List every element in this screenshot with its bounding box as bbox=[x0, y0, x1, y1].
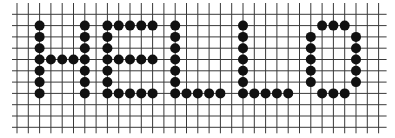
dot bbox=[170, 32, 180, 42]
dot bbox=[328, 21, 338, 31]
dot bbox=[80, 43, 90, 53]
dot bbox=[35, 88, 45, 98]
dot bbox=[170, 21, 180, 31]
dot bbox=[102, 32, 112, 42]
dot bbox=[148, 55, 158, 65]
dot bbox=[204, 88, 214, 98]
dot bbox=[351, 55, 361, 65]
dot bbox=[57, 55, 67, 65]
dot bbox=[170, 77, 180, 87]
dot bbox=[238, 66, 248, 76]
dot bbox=[114, 88, 124, 98]
dot bbox=[340, 88, 350, 98]
dot bbox=[102, 43, 112, 53]
dot bbox=[46, 55, 56, 65]
dot bbox=[182, 88, 192, 98]
dot bbox=[136, 21, 146, 31]
dot bbox=[35, 77, 45, 87]
dot bbox=[102, 21, 112, 31]
dot bbox=[283, 88, 293, 98]
dot bbox=[136, 55, 146, 65]
dot bbox=[238, 21, 248, 31]
dot bbox=[80, 55, 90, 65]
dot bbox=[80, 88, 90, 98]
dot bbox=[170, 43, 180, 53]
dot bbox=[238, 77, 248, 87]
dot bbox=[351, 32, 361, 42]
dot bbox=[102, 88, 112, 98]
dot bbox=[148, 21, 158, 31]
dot bbox=[306, 43, 316, 53]
dot-matrix-board bbox=[0, 0, 395, 138]
dot bbox=[340, 21, 350, 31]
dot bbox=[80, 21, 90, 31]
dot bbox=[317, 21, 327, 31]
dot bbox=[125, 88, 135, 98]
dot bbox=[125, 55, 135, 65]
dot bbox=[238, 32, 248, 42]
dot bbox=[35, 21, 45, 31]
dot bbox=[125, 21, 135, 31]
dot bbox=[102, 55, 112, 65]
dot bbox=[80, 32, 90, 42]
dot bbox=[306, 77, 316, 87]
dot bbox=[35, 55, 45, 65]
dot bbox=[170, 88, 180, 98]
dot bbox=[114, 55, 124, 65]
dot bbox=[306, 55, 316, 65]
dot bbox=[351, 77, 361, 87]
dot bbox=[80, 66, 90, 76]
dot bbox=[306, 32, 316, 42]
dot bbox=[136, 88, 146, 98]
dot bbox=[306, 66, 316, 76]
dot bbox=[351, 43, 361, 53]
dot bbox=[351, 66, 361, 76]
dot bbox=[238, 43, 248, 53]
dot bbox=[35, 32, 45, 42]
dot bbox=[102, 77, 112, 87]
dot bbox=[114, 21, 124, 31]
dot bbox=[215, 88, 225, 98]
dot bbox=[69, 55, 79, 65]
dot bbox=[193, 88, 203, 98]
dot bbox=[317, 88, 327, 98]
dot bbox=[35, 66, 45, 76]
dot bbox=[328, 88, 338, 98]
dot bbox=[35, 43, 45, 53]
dot bbox=[170, 66, 180, 76]
dot bbox=[249, 88, 259, 98]
dot bbox=[102, 66, 112, 76]
dot bbox=[272, 88, 282, 98]
dot bbox=[80, 77, 90, 87]
dot bbox=[261, 88, 271, 98]
dot bbox=[148, 88, 158, 98]
dot bbox=[170, 55, 180, 65]
dot bbox=[238, 88, 248, 98]
dot bbox=[238, 55, 248, 65]
